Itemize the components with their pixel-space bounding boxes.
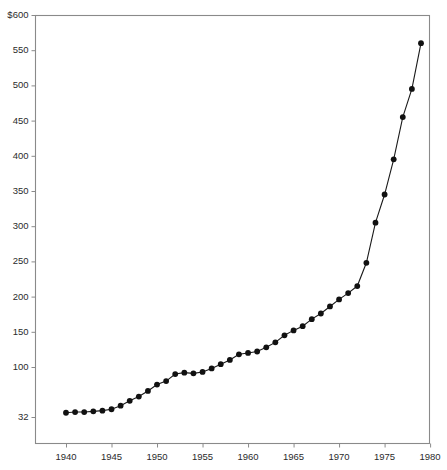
y-tick-label: 400 xyxy=(13,150,29,161)
data-point xyxy=(200,369,206,375)
data-point xyxy=(127,398,133,404)
data-point xyxy=(172,371,178,377)
x-tick-label: 1965 xyxy=(274,451,314,462)
line-chart: $60055050045040035030025020015010032 194… xyxy=(0,0,447,470)
y-tick-label: 250 xyxy=(13,255,29,266)
y-tick-label: 32 xyxy=(18,411,29,422)
data-point xyxy=(90,408,96,414)
data-point xyxy=(236,351,242,357)
data-point xyxy=(327,304,333,310)
data-point xyxy=(218,361,224,367)
x-tick-label: 1960 xyxy=(228,451,268,462)
y-tick-label: $600 xyxy=(7,9,28,20)
data-point xyxy=(100,408,106,414)
x-tick-label: 1975 xyxy=(365,451,405,462)
data-point xyxy=(263,344,269,350)
data-point xyxy=(345,290,351,296)
data-point xyxy=(145,388,151,394)
plot-area-frame xyxy=(36,16,430,444)
data-point xyxy=(136,394,142,400)
data-point xyxy=(373,220,379,226)
y-tick-label: 300 xyxy=(13,220,29,231)
x-tick-label: 1940 xyxy=(46,451,86,462)
y-tick-label: 100 xyxy=(13,361,29,372)
series-markers xyxy=(63,40,424,415)
data-point xyxy=(409,86,415,92)
y-tick-label: 500 xyxy=(13,79,29,90)
chart-canvas xyxy=(0,0,447,470)
data-point xyxy=(254,349,260,355)
x-tick-label: 1950 xyxy=(137,451,177,462)
y-tick-label: 150 xyxy=(13,326,29,337)
data-point xyxy=(291,327,297,333)
data-point xyxy=(418,40,424,46)
data-point xyxy=(209,366,215,372)
x-axis-ticks xyxy=(67,444,431,448)
data-point xyxy=(163,378,169,384)
data-point xyxy=(363,260,369,266)
data-point xyxy=(272,339,278,345)
data-point xyxy=(81,409,87,415)
data-point xyxy=(72,409,78,415)
data-point xyxy=(63,410,69,416)
data-point xyxy=(282,332,288,338)
x-tick-label: 1970 xyxy=(319,451,359,462)
data-point xyxy=(227,357,233,363)
data-point xyxy=(181,370,187,376)
x-tick-label: 1945 xyxy=(92,451,132,462)
data-point xyxy=(245,350,251,356)
y-axis-ticks xyxy=(32,16,36,418)
y-tick-label: 350 xyxy=(13,185,29,196)
data-point xyxy=(318,311,324,317)
data-point xyxy=(191,370,197,376)
data-point xyxy=(109,406,115,412)
data-point xyxy=(382,192,388,198)
data-point xyxy=(354,283,360,289)
y-tick-label: 550 xyxy=(13,44,29,55)
series-line xyxy=(66,43,421,413)
y-tick-label: 450 xyxy=(13,115,29,126)
x-tick-label: 1980 xyxy=(410,451,447,462)
data-point xyxy=(300,323,306,329)
x-tick-label: 1955 xyxy=(183,451,223,462)
data-point xyxy=(336,297,342,303)
data-point xyxy=(154,382,160,388)
data-point xyxy=(400,114,406,120)
data-point xyxy=(391,156,397,162)
y-tick-label: 200 xyxy=(13,291,29,302)
data-point xyxy=(309,316,315,322)
data-point xyxy=(118,403,124,409)
